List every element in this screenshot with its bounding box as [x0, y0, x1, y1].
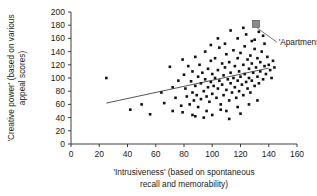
data-point [212, 85, 215, 88]
apartment-leader-line [257, 28, 277, 42]
data-point [232, 77, 235, 80]
data-point [239, 52, 242, 55]
data-point [218, 46, 221, 49]
y-tick-label: 60 [56, 99, 66, 109]
data-point [243, 45, 246, 48]
data-point [236, 37, 239, 40]
data-point [163, 102, 166, 105]
data-point [255, 66, 258, 69]
data-point [193, 99, 196, 102]
data-point [169, 65, 172, 68]
data-point [234, 65, 237, 68]
data-point [263, 42, 266, 45]
data-point [239, 75, 242, 78]
data-point [258, 31, 261, 34]
data-point [215, 97, 218, 100]
data-point [181, 111, 184, 114]
data-point [221, 83, 224, 86]
data-point [242, 27, 245, 30]
data-point [256, 75, 259, 78]
data-point [201, 71, 204, 74]
data-point [225, 89, 228, 92]
data-point [251, 40, 254, 43]
data-point [228, 61, 231, 64]
data-point [228, 118, 231, 121]
trend-line [106, 68, 268, 103]
data-point [204, 78, 207, 81]
data-point [211, 73, 214, 76]
data-point [187, 65, 190, 68]
data-points [105, 27, 276, 121]
data-point [273, 66, 276, 69]
data-point [217, 37, 220, 40]
data-point [198, 64, 201, 67]
data-point [248, 67, 251, 70]
x-tick-label: 20 [95, 149, 105, 159]
data-point [222, 94, 225, 97]
data-point [256, 57, 259, 60]
data-point [219, 103, 222, 106]
data-point [253, 48, 256, 51]
data-point [149, 113, 152, 116]
data-point [251, 62, 254, 65]
data-point [225, 53, 228, 56]
data-point [186, 95, 189, 98]
data-point [197, 106, 200, 109]
data-point [219, 108, 222, 111]
data-point [238, 70, 241, 73]
y-tick-label: 100 [51, 73, 65, 83]
data-point [229, 71, 232, 74]
data-point [177, 79, 180, 82]
data-point [242, 94, 245, 97]
annotations: 'Apartment' [253, 20, 317, 47]
data-point [225, 110, 228, 113]
chart-canvas: 020406080100120140160180200 020406080100… [0, 0, 317, 196]
y-tick-label: 20 [56, 126, 66, 136]
data-point [205, 95, 208, 98]
data-point [260, 50, 263, 53]
data-point [236, 79, 239, 82]
data-point [221, 62, 224, 65]
x-tick-label: 60 [151, 149, 161, 159]
data-point [207, 86, 210, 89]
data-point [265, 73, 268, 76]
y-axis-ticks: 020406080100120140160180200 [51, 7, 71, 149]
data-point [263, 65, 266, 68]
data-point [184, 87, 187, 90]
data-point [262, 34, 265, 37]
data-point [191, 114, 194, 117]
y-axis-title-line2: appeal scores) [17, 51, 27, 106]
data-point [218, 79, 221, 82]
data-point [229, 29, 232, 32]
data-point [211, 93, 214, 96]
scatter-plot-figure: 020406080100120140160180200 020406080100… [0, 0, 317, 196]
data-point [253, 38, 256, 41]
data-point [222, 74, 225, 77]
data-point [259, 61, 262, 64]
data-point [246, 58, 249, 61]
data-point [214, 77, 217, 80]
data-point [140, 103, 143, 106]
data-point [246, 87, 249, 90]
data-point [174, 97, 177, 100]
x-tick-label: 0 [69, 149, 74, 159]
x-tick-label: 100 [205, 149, 219, 159]
data-point [256, 99, 259, 102]
y-tick-label: 160 [51, 33, 65, 43]
data-point [194, 85, 197, 88]
data-point [236, 106, 239, 109]
data-point [180, 104, 183, 107]
data-point [241, 83, 244, 86]
data-point [211, 114, 214, 117]
trend-line-segment [106, 68, 268, 103]
y-tick-label: 120 [51, 60, 65, 70]
data-point [236, 57, 239, 60]
data-point [194, 115, 197, 118]
x-axis-title-line2: recall and memorability) [140, 179, 228, 189]
data-point [183, 73, 186, 76]
data-point [181, 58, 184, 61]
y-tick-label: 0 [60, 139, 65, 149]
data-point [200, 98, 203, 101]
data-point [195, 94, 198, 97]
y-tick-label: 140 [51, 47, 65, 57]
